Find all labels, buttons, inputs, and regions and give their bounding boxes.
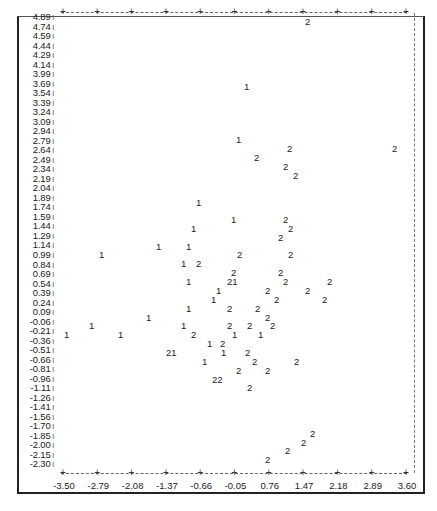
data-point-group-1: 1 bbox=[118, 330, 123, 340]
data-point-group-2: 2 bbox=[287, 144, 292, 154]
data-point-group-1: 1 bbox=[196, 198, 201, 208]
data-point-group-2: 2 bbox=[236, 366, 241, 376]
plus-tick-icon: + bbox=[60, 468, 70, 478]
data-point-group-2: 2 bbox=[288, 224, 293, 234]
data-point-group-21: 21 bbox=[227, 277, 238, 287]
plus-tick-icon: + bbox=[129, 468, 139, 478]
plus-tick-icon: + bbox=[163, 7, 173, 17]
data-point-group-2: 2 bbox=[237, 250, 242, 260]
data-point-group-1: 1 bbox=[236, 135, 241, 145]
data-point-group-2: 2 bbox=[265, 286, 270, 296]
data-point-group-22: 22 bbox=[212, 375, 223, 385]
data-point-group-2: 2 bbox=[285, 446, 290, 456]
data-point-group-1: 1 bbox=[231, 215, 236, 225]
data-point-group-1: 1 bbox=[186, 277, 191, 287]
data-point-group-1: 1 bbox=[156, 242, 161, 252]
data-point-group-2: 2 bbox=[196, 259, 201, 269]
y-tick-label: -2.30 bbox=[18, 459, 54, 470]
data-point-group-2: 2 bbox=[283, 277, 288, 287]
data-point-group-2: 2 bbox=[278, 233, 283, 243]
plus-tick-icon: + bbox=[266, 468, 276, 478]
data-point-group-1: 1 bbox=[216, 286, 221, 296]
data-point-group-2: 2 bbox=[274, 295, 279, 305]
plus-tick-icon: + bbox=[266, 7, 276, 17]
data-point-group-1: 1 bbox=[64, 330, 69, 340]
plus-tick-icon: + bbox=[197, 7, 207, 17]
plus-tick-icon: + bbox=[129, 7, 139, 17]
data-point-group-2: 2 bbox=[294, 357, 299, 367]
data-point-group-1: 1 bbox=[232, 330, 237, 340]
data-point-group-2: 2 bbox=[252, 357, 257, 367]
data-point-group-2: 2 bbox=[322, 295, 327, 305]
plus-tick-icon: + bbox=[300, 468, 310, 478]
data-point-group-1: 1 bbox=[181, 321, 186, 331]
plus-tick-icon: + bbox=[369, 468, 379, 478]
plus-tick-icon: + bbox=[232, 468, 242, 478]
data-point-group-1: 1 bbox=[99, 250, 104, 260]
plus-tick-icon: + bbox=[334, 468, 344, 478]
data-point-group-1: 1 bbox=[186, 304, 191, 314]
plus-tick-icon: + bbox=[232, 7, 242, 17]
plus-tick-icon: + bbox=[94, 7, 104, 17]
data-point-group-2: 2 bbox=[254, 153, 259, 163]
plus-tick-icon: + bbox=[369, 7, 379, 17]
data-point-group-2: 2 bbox=[310, 429, 315, 439]
data-point-group-1: 1 bbox=[89, 321, 94, 331]
data-point-group-2: 2 bbox=[283, 162, 288, 172]
right-axis-line bbox=[414, 13, 415, 473]
data-point-group-2: 2 bbox=[255, 304, 260, 314]
data-point-group-2: 2 bbox=[270, 321, 275, 331]
plus-tick-icon: + bbox=[403, 468, 413, 478]
data-point-group-1: 1 bbox=[186, 242, 191, 252]
data-point-group-1: 1 bbox=[258, 330, 263, 340]
data-point-group-2: 2 bbox=[191, 330, 196, 340]
plus-tick-icon: + bbox=[94, 468, 104, 478]
data-point-group-1: 1 bbox=[191, 224, 196, 234]
data-point-group-2: 2 bbox=[305, 286, 310, 296]
data-point-group-2: 2 bbox=[293, 171, 298, 181]
plus-tick-icon: + bbox=[60, 7, 70, 17]
plus-tick-icon: + bbox=[197, 468, 207, 478]
data-point-group-2: 2 bbox=[247, 321, 252, 331]
data-point-group-1: 1 bbox=[221, 348, 226, 358]
data-point-group-2: 2 bbox=[327, 277, 332, 287]
data-point-group-2: 2 bbox=[265, 366, 270, 376]
data-point-group-1: 1 bbox=[146, 313, 151, 323]
x-tick-label: 3.60 bbox=[387, 480, 427, 491]
data-point-group-2: 2 bbox=[305, 17, 310, 27]
data-point-group-21: 21 bbox=[166, 348, 177, 358]
data-point-group-1: 1 bbox=[211, 295, 216, 305]
data-point-group-1: 1 bbox=[181, 259, 186, 269]
plus-tick-icon: + bbox=[334, 7, 344, 17]
chart-frame bbox=[17, 16, 425, 494]
data-point-group-2: 2 bbox=[227, 304, 232, 314]
data-point-group-2: 2 bbox=[247, 383, 252, 393]
data-point-group-2: 2 bbox=[301, 438, 306, 448]
data-point-group-2: 2 bbox=[392, 144, 397, 154]
plus-tick-icon: + bbox=[163, 468, 173, 478]
plus-tick-icon: + bbox=[403, 7, 413, 17]
data-point-group-2: 2 bbox=[288, 250, 293, 260]
data-point-group-1: 1 bbox=[207, 339, 212, 349]
data-point-group-2: 2 bbox=[265, 455, 270, 465]
data-point-group-2: 2 bbox=[245, 348, 250, 358]
data-point-group-1: 1 bbox=[244, 82, 249, 92]
data-point-group-1: 1 bbox=[202, 357, 207, 367]
